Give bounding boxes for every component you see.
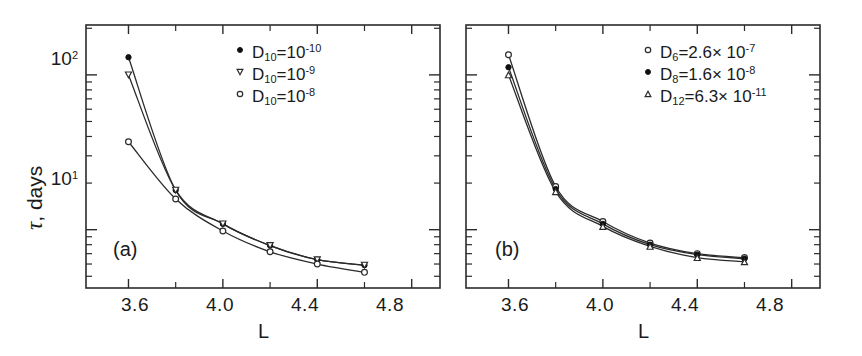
legend-b-2-eq: =6.3× 10 (685, 87, 752, 106)
figure-root: τ, days 102 101 (a) (b) L L 3.6 4.0 4.4 … (0, 0, 862, 356)
legend-a-0-eq: =10 (277, 43, 306, 62)
panel-a-legend-label-2: D10=10-8 (252, 86, 315, 107)
legend-a-1-eq: =10 (277, 65, 306, 84)
legend-b-2-sup: -11 (752, 86, 767, 98)
y-axis-label-rest: , days (23, 166, 46, 222)
y-tick-label-1e1: 101 (51, 168, 78, 190)
panel-a-legend-item-1: D10=10-9 (252, 64, 315, 85)
y-axis-label-symbol: τ (22, 222, 47, 230)
panel-b-legend-label-0: D6=2.6× 10-7 (660, 42, 755, 63)
panel-b-legend-label-1: D8=1.6× 10-8 (660, 64, 755, 85)
legend-b-0-sup: -7 (746, 42, 756, 54)
legend-b-1-symbol: D (660, 65, 672, 84)
panel-a-legend-markers (237, 48, 243, 97)
y-tick-1e1-exponent: 1 (72, 169, 78, 181)
panel-b-tag: (b) (495, 238, 519, 261)
legend-a-2-symbol: D (252, 87, 264, 106)
legend-b-2-sub: 12 (672, 95, 684, 107)
panel-b-legend-label-2: D12=6.3× 10-11 (660, 86, 767, 107)
panel-b-x-axis-label: L (638, 320, 649, 343)
panel-a-x-tick-4-4: 4.4 (291, 294, 319, 316)
legend-b-1-eq: =1.6× 10 (678, 65, 745, 84)
panel-a-legend-label-1: D10=10-9 (252, 64, 315, 85)
legend-b-1-sup: -8 (746, 64, 756, 76)
panel-b-legend-markers (645, 47, 651, 96)
panel-a-x-tick-3-6: 3.6 (121, 294, 149, 316)
y-tick-1e2-exponent: 2 (72, 49, 78, 61)
panel-a-x-tick-4-8: 4.8 (376, 294, 404, 316)
panel-b-x-tick-4-0: 4.0 (586, 294, 614, 316)
panel-a-curves (128, 57, 364, 272)
panel-a-legend-label-0: D10=10-10 (252, 42, 321, 63)
panel-a-legend-item-2: D10=10-8 (252, 86, 315, 107)
legend-a-2-sup: -8 (305, 86, 315, 98)
legend-a-1-symbol: D (252, 65, 264, 84)
panel-b-legend-item-0: D6=2.6× 10-7 (660, 42, 755, 63)
legend-b-2-symbol: D (660, 87, 672, 106)
y-tick-1e1-mantissa: 10 (51, 168, 72, 189)
panel-b-x-tick-3-6: 3.6 (501, 294, 529, 316)
panel-a-tag: (a) (113, 238, 137, 261)
panel-b-x-tick-4-8: 4.8 (756, 294, 784, 316)
legend-a-2-sub: 10 (264, 95, 276, 107)
legend-a-0-sup: -10 (305, 42, 321, 54)
y-tick-1e2-mantissa: 10 (51, 48, 72, 69)
legend-b-0-symbol: D (660, 43, 672, 62)
legend-a-1-sup: -9 (305, 64, 315, 76)
legend-b-0-eq: =2.6× 10 (678, 43, 745, 62)
y-tick-label-1e2: 102 (51, 48, 78, 70)
panel-a-x-tick-4-0: 4.0 (206, 294, 234, 316)
legend-a-0-sub: 10 (264, 51, 276, 63)
panel-b-legend-item-1: D8=1.6× 10-8 (660, 64, 755, 85)
panel-a-legend-item-0: D10=10-10 (252, 42, 321, 63)
legend-a-0-symbol: D (252, 43, 264, 62)
panel-b-x-tick-4-4: 4.4 (671, 294, 699, 316)
y-axis-label: τ, days (22, 166, 48, 230)
panel-b-legend-item-2: D12=6.3× 10-11 (660, 86, 767, 107)
legend-a-2-eq: =10 (277, 87, 306, 106)
panel-a-x-axis-label: L (258, 320, 269, 343)
legend-a-1-sub: 10 (264, 73, 276, 85)
